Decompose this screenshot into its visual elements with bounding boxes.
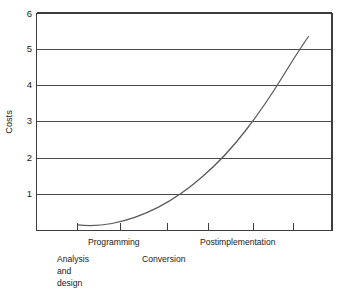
ytick-label-1: 1 xyxy=(27,188,32,199)
xlabel-conversion: Conversion xyxy=(142,254,186,264)
data-series-cost-of-change xyxy=(78,37,309,226)
xlabel-analysis-line2: and xyxy=(57,266,72,276)
plot-gridlines xyxy=(37,49,333,194)
y-axis-tick-labels: 6 5 4 3 2 1 xyxy=(27,8,32,200)
ytick-label-3: 3 xyxy=(27,115,32,126)
xlabel-analysis-line1: Analysis xyxy=(57,254,89,264)
xlabel-postimplementation: Postimplementation xyxy=(200,237,276,247)
ytick-label-5: 5 xyxy=(27,43,32,54)
chart-canvas: 6 5 4 3 2 1 Costs Programming Postimplem… xyxy=(0,0,343,292)
ytick-label-2: 2 xyxy=(27,152,32,163)
cost-curve-chart: 6 5 4 3 2 1 Costs Programming Postimplem… xyxy=(0,0,343,292)
xlabel-analysis-line3: design xyxy=(57,278,83,288)
xlabel-programming: Programming xyxy=(88,237,140,247)
y-axis-title-text: Costs xyxy=(4,110,14,134)
ytick-label-4: 4 xyxy=(27,79,32,90)
cost-curve-path xyxy=(78,37,309,226)
ytick-label-6: 6 xyxy=(27,8,32,19)
y-axis-title: Costs xyxy=(4,110,14,134)
x-axis-category-labels: Programming Postimplementation Conversio… xyxy=(57,237,276,288)
